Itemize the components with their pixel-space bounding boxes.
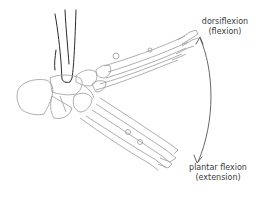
dorsiflexion-text: dorsiflexion (196, 17, 254, 27)
foot-motion-diagram: dorsiflexion (flexion) plantar flexion (… (0, 0, 257, 197)
plantar-flexion-label: plantar flexion (extension) (180, 163, 256, 183)
dorsiflexion-label: dorsiflexion (flexion) (196, 17, 254, 37)
motion-arc-arrow (194, 37, 211, 163)
flexion-text: (flexion) (196, 27, 254, 37)
extension-text: (extension) (180, 173, 256, 183)
foot-bones (17, 30, 198, 170)
leg-bones (55, 10, 76, 82)
plantar-flexion-text: plantar flexion (180, 163, 256, 173)
